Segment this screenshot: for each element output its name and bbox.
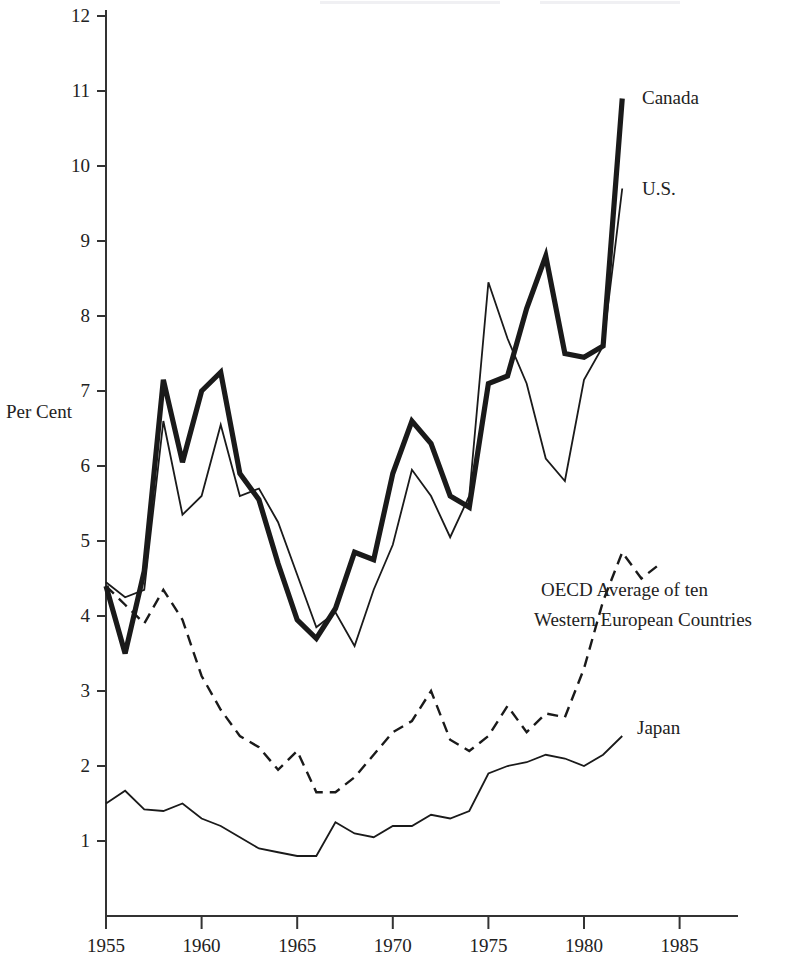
data-series [106,99,660,857]
x-tick-label: 1975 [458,936,518,955]
x-tick-label: 1960 [172,936,232,955]
y-tick-label: 4 [0,606,90,625]
y-tick-label: 8 [0,306,90,325]
y-axis-title: Per Cent [6,401,72,423]
y-tick-label: 9 [0,231,90,250]
y-tick-label: 6 [0,456,90,475]
series-label-japan: Japan [637,715,680,741]
y-tick-label: 10 [0,156,90,175]
series-label-canada: Canada [642,85,699,111]
x-tick-label: 1980 [554,936,614,955]
x-tick-label: 1985 [650,936,710,955]
y-tick-label: 3 [0,681,90,700]
axes [97,10,738,929]
series-label-oecd-line2: Western European Countries [534,607,752,633]
x-tick-label: 1970 [363,936,423,955]
x-tick-label: 1965 [267,936,327,955]
series-line-canada [106,99,622,654]
y-tick-label: 7 [0,381,90,400]
y-tick-label: 11 [0,81,90,100]
series-line-japan [106,736,622,856]
y-tick-label: 1 [0,831,90,850]
y-tick-label: 2 [0,756,90,775]
x-tick-label: 1955 [76,936,136,955]
series-label-oecd-line1: OECD Average of ten [541,577,708,603]
series-label-us: U.S. [642,176,676,202]
y-tick-label: 5 [0,531,90,550]
y-tick-label: 12 [0,6,90,25]
